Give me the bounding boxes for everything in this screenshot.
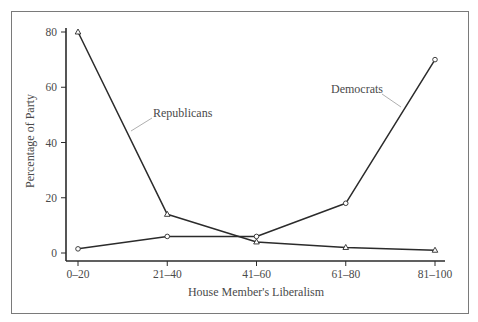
x-tick-label: 0–20 (67, 268, 90, 280)
democrats-circle-marker (165, 234, 170, 239)
x-tick-label: 81–100 (418, 268, 453, 280)
y-tick-label: 20 (46, 192, 58, 204)
x-tick-label: 21–40 (153, 268, 182, 280)
democrats-circle-marker (433, 57, 438, 62)
y-tick-label: 60 (46, 81, 58, 93)
line-chart: 020406080 0–2021–4041–6061–8081–100 Perc… (0, 0, 478, 322)
y-tick-label: 0 (51, 247, 57, 259)
y-axis-title: Percentage of Party (23, 94, 37, 188)
x-tick-label: 41–60 (242, 268, 271, 280)
democrats-label: Democrats (331, 82, 383, 96)
x-axis-title: House Member's Liberalism (188, 285, 325, 299)
chart: 020406080 0–2021–4041–6061–8081–100 Perc… (0, 0, 478, 322)
democrats-circle-marker (343, 201, 348, 206)
democrats-circle-marker (76, 247, 81, 252)
x-tick-label: 61–80 (331, 268, 360, 280)
y-tick-label: 40 (46, 137, 58, 149)
y-tick-label: 80 (46, 26, 58, 38)
democrats-circle-marker (254, 234, 259, 239)
republicans-label: Republicans (153, 106, 213, 120)
